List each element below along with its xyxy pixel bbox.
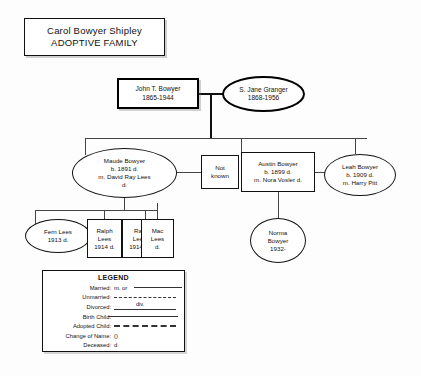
person-dates-fern-lees: 1913 d.	[48, 236, 69, 244]
person-name-norma-bowyer-line-1: Norma	[269, 229, 288, 237]
legend-row-sample-line	[114, 325, 176, 327]
person-name-leah-bowyer: Leah Bowyer	[342, 163, 378, 171]
person-spouse-deceased-maude-bowyer: d.	[122, 181, 127, 189]
legend-row: Birth Child:	[43, 312, 184, 322]
person-node-norma-bowyer: Norma Bowyer 1932-	[250, 218, 306, 263]
person-name-ralph-lees-line-1: Ralph	[96, 227, 112, 235]
legend-row-label: Deceased:	[43, 342, 114, 348]
legend-row-sample: ()	[114, 331, 184, 341]
legend-row-sample-line	[108, 316, 178, 317]
person-node-austin-bowyer: Austin Bowyer b. 1899 d. m. Nora Vosler …	[241, 152, 315, 192]
sibling-bar-lees-children	[35, 210, 157, 211]
legend-row-sample: d.	[114, 341, 184, 351]
person-dates-john-t-bowyer: 1865-1944	[142, 94, 174, 102]
diagram-title-line-2: ADOPTIVE FAMILY	[51, 37, 138, 49]
legend-row: Deceased:d.	[43, 341, 184, 351]
person-birth-maude-bowyer: b. 1891 d.	[111, 165, 139, 173]
legend-row-sample-text: m. or	[114, 285, 127, 291]
person-name-john-t-bowyer: John T. Bowyer	[136, 85, 181, 93]
legend-row-label: Unmarried:	[43, 294, 114, 300]
connector-maude-notknown	[177, 172, 203, 173]
diagram-title-line-1: Carol Bowyer Shipley	[47, 25, 142, 37]
descent-line-generation1	[210, 94, 212, 138]
legend-box: LEGEND Married:m. orUnmarried:Divorced:d…	[42, 270, 185, 352]
person-birth-austin-bowyer: b. 1899 d.	[264, 168, 292, 176]
drop-line-leah	[355, 138, 356, 154]
legend-row-sample-line	[114, 309, 176, 310]
person-name-not-known-line-2: known	[211, 172, 229, 180]
person-node-john-t-bowyer: John T. Bowyer 1865-1944	[117, 78, 199, 109]
person-name-mac-lees-line-1: Mac	[152, 227, 164, 235]
person-dates-s-jane-granger: 1868-1956	[248, 94, 280, 102]
legend-row-sample-text: ()	[114, 333, 118, 339]
legend-row: Unmarried:	[43, 293, 184, 303]
legend-row-label: Change of Name:	[43, 333, 114, 339]
legend-row-sample-text: d.	[114, 342, 119, 348]
legend-row-sample	[114, 321, 184, 331]
person-name-austin-bowyer: Austin Bowyer	[258, 160, 298, 168]
legend-row: Adopted Child:	[43, 321, 184, 331]
person-name-maude-bowyer: Maude Bowyer	[104, 157, 145, 165]
person-name-norma-bowyer-line-2: Bowyer	[268, 237, 289, 245]
drop-line-ray	[145, 210, 146, 219]
legend-row-sample-line	[134, 287, 182, 288]
drop-line-ralph	[104, 210, 105, 219]
person-spouse-austin-bowyer: m. Nora Vosler d.	[254, 176, 302, 184]
person-birth-leah-bowyer: b. 1909 d.	[346, 171, 374, 179]
person-spouse-leah-bowyer: m. Harry Pitt	[343, 179, 377, 187]
person-name-mac-lees-line-2: Lees	[151, 235, 164, 243]
legend-row-sample: div.	[114, 302, 184, 312]
descent-line-austin-norma	[278, 192, 279, 218]
person-dates-norma-bowyer: 1932-	[270, 245, 286, 253]
legend-row: Change of Name:()	[43, 331, 184, 341]
legend-row-sample: m. or	[114, 283, 184, 293]
person-node-maude-bowyer: Maude Bowyer b. 1891 d. m. David Ray Lee…	[72, 148, 177, 198]
person-name-fern-lees: Fern Lees	[44, 228, 72, 236]
person-node-mac-lees: Mac Lees d.	[141, 219, 174, 258]
person-dates-ralph-lees: 1914 d.	[94, 243, 115, 251]
person-node-fern-lees: Fern Lees 1913 d.	[25, 219, 91, 253]
descent-line-maude-children	[124, 197, 125, 210]
legend-row-label: Married:	[43, 285, 114, 291]
legend-row-label: Adopted Child:	[43, 323, 114, 329]
person-node-s-jane-granger: S. Jane Granger 1868-1956	[222, 76, 305, 112]
legend-row: Married:m. or	[43, 283, 184, 293]
legend-row-sample-line	[114, 297, 176, 298]
legend-row-sample	[114, 293, 184, 303]
diagram-title-box: Carol Bowyer Shipley ADOPTIVE FAMILY	[24, 18, 165, 56]
person-node-ralph-lees: Ralph Lees 1914 d.	[87, 219, 122, 258]
legend-row-sample-text: div.	[136, 301, 144, 307]
drop-line-austin	[241, 138, 242, 152]
person-name-not-known-line-1: Not	[215, 164, 225, 172]
legend-row-sample	[114, 312, 184, 322]
legend-row-label: Divorced:	[43, 304, 114, 310]
legend-title: LEGEND	[43, 274, 184, 281]
legend-row-label: Birth Child:	[43, 314, 114, 320]
drop-line-maude	[85, 138, 86, 155]
family-tree-diagram: Carol Bowyer Shipley ADOPTIVE FAMILY Joh…	[0, 0, 421, 376]
person-name-s-jane-granger: S. Jane Granger	[239, 86, 287, 94]
person-node-leah-bowyer: Leah Bowyer b. 1909 d. m. Harry Pitt	[324, 154, 396, 196]
person-name-ralph-lees-line-2: Lees	[98, 235, 111, 243]
legend-row: Divorced:div.	[43, 302, 184, 312]
person-deceased-mac-lees: d.	[155, 243, 160, 251]
person-spouse-maude-bowyer: m. David Ray Lees	[98, 173, 150, 181]
person-node-not-known: Not known	[201, 155, 239, 189]
sibling-bar-generation2	[85, 138, 367, 139]
drop-line-mac	[157, 203, 158, 219]
legend-rows: Married:m. orUnmarried:Divorced:div.Birt…	[43, 283, 184, 350]
